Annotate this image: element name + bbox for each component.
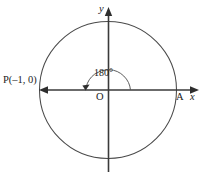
angle-measure-label: 180° xyxy=(94,68,113,78)
origin-label: O xyxy=(96,92,104,103)
geometry-figure: P(–1, 0) O A x y 180° xyxy=(0,0,205,180)
point-a-label: A xyxy=(176,92,184,103)
figure-canvas xyxy=(0,0,205,180)
point-p-label: P(–1, 0) xyxy=(3,75,37,86)
x-axis-label: x xyxy=(190,92,195,103)
y-axis-top-arrow-icon xyxy=(105,7,112,16)
y-axis-label: y xyxy=(99,4,104,15)
x-axis-left-arrow-icon xyxy=(39,86,48,94)
